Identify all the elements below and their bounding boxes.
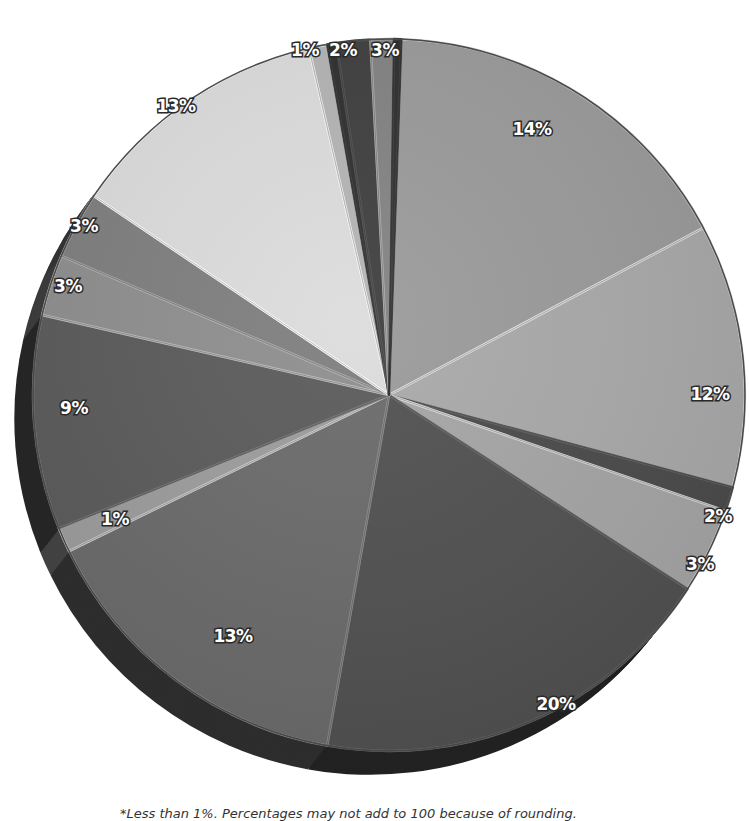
slice-label: 3% xyxy=(686,554,714,574)
slice-label: 1% xyxy=(101,509,129,529)
slice-label: 12% xyxy=(690,384,730,404)
slice-label: 13% xyxy=(156,96,196,116)
slice-label: 1% xyxy=(291,40,319,60)
slice-label: 2% xyxy=(329,40,357,60)
slice-label: 9% xyxy=(60,398,88,418)
slice-label: 14% xyxy=(512,119,552,139)
slice-label: 3% xyxy=(54,276,82,296)
pie-slices xyxy=(33,39,745,751)
slice-label: 2% xyxy=(704,506,732,526)
chart-footnote: *Less than 1%. Percentages may not add t… xyxy=(120,806,720,821)
slice-label: 3% xyxy=(70,216,98,236)
slice-label: 20% xyxy=(536,694,576,714)
slice-label: 3% xyxy=(371,40,399,60)
slice-label: 13% xyxy=(213,626,253,646)
